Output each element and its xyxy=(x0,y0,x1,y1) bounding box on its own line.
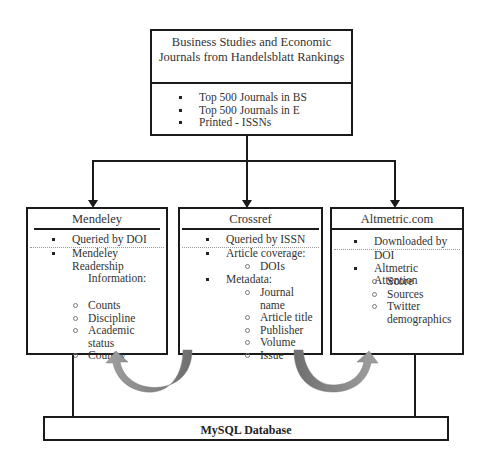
curved-arrows xyxy=(0,0,482,464)
curved-arrow-crossref-to-altmetric xyxy=(294,350,378,392)
database-label: MySQL Database xyxy=(45,423,447,438)
curved-arrow-crossref-to-mendeley xyxy=(106,350,192,392)
mysql-database-box: MySQL Database xyxy=(43,416,449,441)
